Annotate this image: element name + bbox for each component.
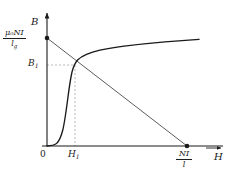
plot-area <box>0 0 231 184</box>
h-max-denominator: l <box>176 160 192 169</box>
marker-load-line-y-intercept <box>45 36 50 41</box>
b-saturation-label: μ₀NI lg <box>3 29 26 48</box>
h-operating-subscript: 1 <box>76 153 80 160</box>
bh-curve-figure: B μ₀NI lg B1 0 H1 NI l H <box>0 0 231 184</box>
h-max-numerator: NI <box>176 150 192 160</box>
b-saturation-denominator: lg <box>3 39 26 48</box>
h-operating-label: H1 <box>68 150 80 159</box>
x-axis-label: H <box>214 152 223 162</box>
marker-load-line-x-intercept <box>185 144 190 149</box>
b-saturation-denominator-subscript: g <box>14 43 17 49</box>
b-operating-label: B1 <box>28 59 39 68</box>
b-operating-text: B <box>28 58 35 68</box>
y-axis-label: B <box>31 17 38 27</box>
h-operating-text: H <box>68 149 76 159</box>
b-saturation-numerator: μ₀NI <box>3 29 26 39</box>
b-operating-subscript: 1 <box>35 62 39 69</box>
origin-label: 0 <box>40 150 46 159</box>
h-max-label: NI l <box>176 150 192 169</box>
